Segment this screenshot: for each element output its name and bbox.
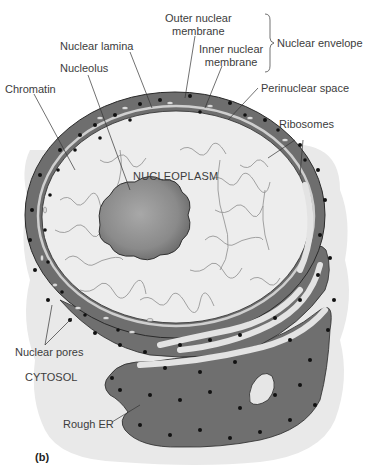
nucleus-illustration [0,0,366,474]
label-rough-er: Rough ER [63,418,114,431]
label-outer-nuclear-membrane: Outer nuclear membrane [165,12,232,38]
label-nucleolus: Nucleolus [60,62,108,75]
panel-label: (b) [35,451,49,463]
label-chromatin: Chromatin [5,83,56,96]
leader-outer-membrane [185,36,195,98]
label-nuclear-envelope: Nuclear envelope [277,37,363,50]
label-nucleoplasm: NUCLEOPLASM [133,170,218,183]
label-nuclear-lamina: Nuclear lamina [60,40,133,53]
label-perinuclear-space: Perinuclear space [261,82,349,95]
label-cytosol: CYTOSOL [25,371,77,384]
label-nuclear-pores: Nuclear pores [15,346,83,359]
label-inner-nuclear-membrane: Inner nuclear membrane [199,43,263,69]
label-ribosomes: Ribosomes [279,118,334,131]
nucleus-diagram: Outer nuclear membrane Inner nuclear mem… [0,0,366,474]
nuclear-envelope-bracket [265,14,274,72]
